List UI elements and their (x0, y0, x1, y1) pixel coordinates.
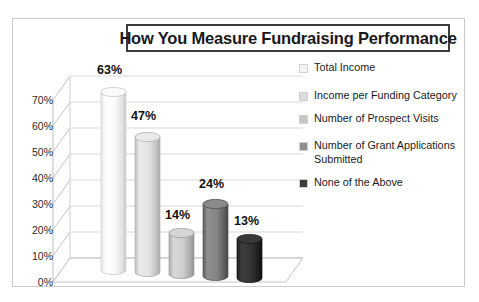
bar-income-per-funding-category (135, 132, 160, 276)
data-label-bar-1: 63% (97, 63, 122, 77)
bar-number-of-prospect-visits (169, 228, 194, 278)
legend-swatch-icon (299, 179, 308, 188)
y-tick-60: 60% (15, 121, 53, 132)
legend-item-label: Number of Grant Applications Submitted (314, 139, 464, 167)
chart-legend: Total Income Income per Funding Category… (299, 61, 464, 199)
legend-item-number-of-grant-applications-submitted[interactable]: Number of Grant Applications Submitted (299, 139, 464, 167)
legend-item-label: Total Income (314, 61, 375, 75)
data-label-bar-4: 24% (199, 177, 224, 191)
y-tick-20: 20% (15, 225, 53, 236)
y-tick-0: 0% (15, 277, 53, 288)
data-label-bar-3: 14% (165, 208, 190, 222)
chart-title: How You Measure Fundraising Performance (119, 29, 456, 48)
legend-item-label: None of the Above (314, 176, 403, 190)
y-tick-10: 10% (15, 251, 53, 262)
bar-number-of-grant-applications-submitted (203, 199, 228, 280)
legend-item-label: Number of Prospect Visits (314, 112, 439, 126)
y-tick-70: 70% (15, 95, 53, 106)
y-tick-30: 30% (15, 199, 53, 210)
bar-none-of-the-above (237, 234, 262, 282)
legend-swatch-icon (299, 92, 308, 101)
data-label-bar-5: 13% (234, 214, 259, 228)
chart-title-box: How You Measure Fundraising Performance (126, 24, 450, 52)
bar-total-income (101, 87, 126, 274)
plot-area: 70% 60% 50% 40% 30% 20% 10% 0% 63% 47% 1… (13, 19, 466, 286)
legend-item-number-of-prospect-visits[interactable]: Number of Prospect Visits (299, 112, 464, 126)
legend-item-none-of-the-above[interactable]: None of the Above (299, 176, 464, 190)
legend-item-label: Income per Funding Category (314, 89, 457, 103)
legend-swatch-icon (299, 142, 308, 151)
legend-swatch-icon (299, 64, 308, 73)
y-tick-50: 50% (15, 147, 53, 158)
chart-container: 70% 60% 50% 40% 30% 20% 10% 0% 63% 47% 1… (12, 18, 465, 287)
legend-item-income-per-funding-category[interactable]: Income per Funding Category (299, 89, 464, 103)
legend-swatch-icon (299, 115, 308, 124)
data-label-bar-2: 47% (131, 109, 156, 123)
depth-connectors (53, 76, 70, 282)
y-tick-40: 40% (15, 173, 53, 184)
y-axis-tick-labels: 70% 60% 50% 40% 30% 20% 10% 0% (13, 19, 53, 286)
legend-item-total-income[interactable]: Total Income (299, 61, 464, 75)
